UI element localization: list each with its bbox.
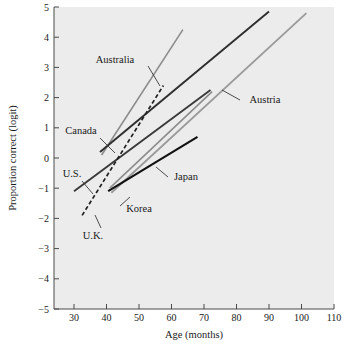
y-tick-label: 0 bbox=[44, 153, 49, 164]
y-tick-label: −2 bbox=[38, 213, 49, 224]
series-label-us: U.S. bbox=[63, 168, 82, 179]
series-label-uk: U.K. bbox=[83, 230, 103, 241]
y-tick-label: −1 bbox=[38, 183, 49, 194]
chart-figure: 5 4 3 2 1 0 −1 −2 −3 −4 −5 30 40 bbox=[0, 0, 344, 353]
series-label-austria: Austria bbox=[250, 94, 281, 105]
x-axis-tick-labels: 30 40 50 60 70 80 90 100 110 bbox=[69, 312, 341, 323]
x-tick-label: 40 bbox=[102, 312, 112, 323]
y-tick-label: 3 bbox=[44, 62, 49, 73]
y-tick-label: 1 bbox=[44, 122, 49, 133]
y-tick-label: −3 bbox=[38, 243, 49, 254]
x-tick-label: 90 bbox=[264, 312, 274, 323]
x-tick-label: 30 bbox=[69, 312, 79, 323]
x-axis-title: Age (months) bbox=[165, 329, 224, 341]
x-tick-label: 50 bbox=[134, 312, 144, 323]
series-label-korea: Korea bbox=[126, 203, 152, 214]
series-label-canada: Canada bbox=[65, 125, 97, 136]
y-tick-label: −5 bbox=[38, 304, 49, 315]
x-tick-label: 110 bbox=[327, 312, 342, 323]
x-tick-label: 70 bbox=[199, 312, 209, 323]
series-label-australia: Australia bbox=[96, 54, 135, 65]
plot-panel-background bbox=[54, 7, 334, 309]
x-tick-label: 60 bbox=[167, 312, 177, 323]
y-tick-label: 5 bbox=[44, 2, 49, 13]
series-label-japan: Japan bbox=[174, 171, 199, 182]
x-tick-label: 80 bbox=[232, 312, 242, 323]
y-tick-label: 2 bbox=[44, 92, 49, 103]
chart-svg: 5 4 3 2 1 0 −1 −2 −3 −4 −5 30 40 bbox=[0, 0, 344, 353]
y-axis-title: Proportion correct (logit) bbox=[7, 105, 19, 211]
y-tick-label: −4 bbox=[38, 273, 49, 284]
y-axis-tick-labels: 5 4 3 2 1 0 −1 −2 −3 −4 −5 bbox=[38, 2, 49, 315]
x-tick-label: 100 bbox=[294, 312, 309, 323]
y-tick-label: 4 bbox=[44, 32, 49, 43]
